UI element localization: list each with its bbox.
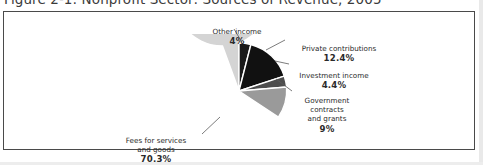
pie-label-government-line1: Government [305,96,350,105]
pie-label-investment-income-percent: 4.4% [292,80,376,91]
pie-label-private-contributions: Private contributions 12.4% [289,44,389,64]
pie-label-government-percent: 9% [295,124,359,135]
pie-label-government-contracts: Government contracts and grants 9% [295,96,359,135]
pie-label-other-income-percent: 4% [200,36,274,47]
pie-label-private-contributions-text: Private contributions [302,44,377,53]
pie-label-fees-line2: and goods [137,145,174,154]
pie-slice-government-contracts-and-grants [239,87,287,117]
page-edge-right [479,0,483,165]
pie-label-private-contributions-percent: 12.4% [289,53,389,64]
pie-label-government-line3: and grants [308,114,347,123]
figure-caption: Figure 2-1: Nonprofit Sector: Sources of… [4,0,382,7]
chart-panel: Other income 4% Private contributions 12… [3,11,475,150]
page-edge-bottom [0,162,483,165]
pie-label-other-income-text: Other income [212,27,261,36]
pie-label-investment-income: Investment income 4.4% [292,71,376,91]
pie-chart [182,34,302,150]
pie-label-investment-income-text: Investment income [299,71,368,80]
pie-label-fees-line1: Fees for services [126,136,186,145]
pie-label-other-income: Other income 4% [200,27,274,47]
pie-label-government-line2: contracts [310,105,344,114]
pie-label-fees-for-services: Fees for services and goods 70.3% [108,136,204,165]
